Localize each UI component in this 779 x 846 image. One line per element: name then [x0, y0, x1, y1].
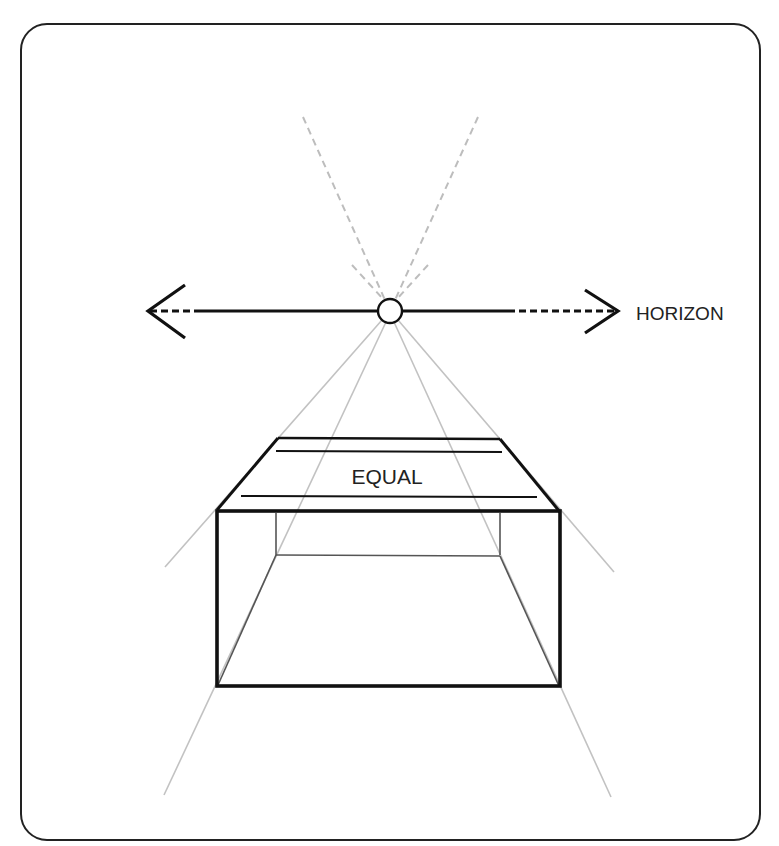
equal-label: EQUAL — [351, 465, 422, 488]
horizon-label: HORIZON — [636, 303, 724, 324]
vanishing-point — [378, 299, 402, 323]
perspective-diagram: HORIZON EQUAL — [0, 0, 779, 846]
diagram-frame — [21, 24, 760, 840]
